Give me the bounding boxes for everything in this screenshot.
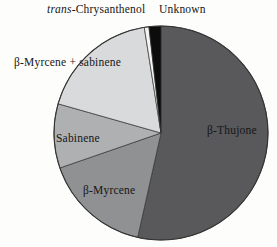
slice-label-chrysanthenol-rest: -Chrysanthenol: [72, 3, 146, 15]
slice-label-unknown: Unknown: [159, 3, 206, 16]
pie-chart-figure: trans-Chrysanthenol Unknown β-Myrcene + …: [0, 0, 277, 247]
slice-label-myrcene-plus-sabinene: β-Myrcene + sabinene: [14, 56, 121, 69]
slice-label-myrcene: β-Myrcene: [83, 184, 135, 197]
slice-label-trans-italic: trans: [47, 3, 72, 15]
slice-label-trans-chrysanthenol: trans-Chrysanthenol: [47, 3, 145, 16]
slice-label-sabinene: Sabinene: [56, 132, 100, 145]
slice-label-thujone: β-Thujone: [207, 124, 257, 137]
